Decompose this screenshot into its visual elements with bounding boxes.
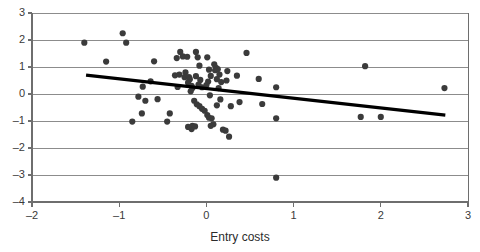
scatter-points	[81, 30, 447, 181]
data-point	[224, 68, 230, 74]
data-point	[185, 124, 191, 130]
data-point	[139, 110, 145, 116]
data-point	[164, 118, 170, 124]
y-tick-label-2: 2	[3, 34, 25, 45]
x-tick-label-3: 3	[455, 210, 480, 221]
x-tick-label--2: –2	[19, 210, 45, 221]
data-point	[196, 63, 202, 69]
data-point	[222, 128, 228, 134]
data-point	[207, 92, 213, 98]
y-tick-label--1: –1	[3, 115, 25, 126]
data-point	[195, 54, 201, 60]
plot-area	[0, 0, 480, 252]
data-point	[234, 73, 240, 79]
data-point	[217, 96, 223, 102]
data-point	[208, 73, 214, 79]
data-point	[204, 54, 210, 60]
y-tick-label-3: 3	[3, 7, 25, 18]
data-point	[206, 67, 212, 73]
y-tick-label-1: 1	[3, 61, 25, 72]
data-point	[154, 96, 160, 102]
data-point	[273, 84, 279, 90]
data-point	[142, 98, 148, 104]
data-point	[81, 40, 87, 46]
y-tick-label--2: –2	[3, 142, 25, 153]
data-point	[140, 84, 146, 90]
data-point	[226, 134, 232, 140]
data-point	[167, 110, 173, 116]
data-point	[123, 40, 129, 46]
data-point	[174, 55, 180, 61]
x-axis-title: Entry costs	[0, 230, 480, 244]
data-point	[188, 88, 194, 94]
x-tick-label-0: 0	[193, 210, 219, 221]
data-point	[273, 115, 279, 121]
data-point	[192, 123, 198, 129]
data-point	[259, 101, 265, 107]
data-point	[236, 99, 242, 105]
y-tick-label--3: –3	[3, 169, 25, 180]
y-tick-label--4: –4	[3, 196, 25, 207]
data-point	[193, 49, 199, 55]
x-tick-label-2: 2	[368, 210, 394, 221]
data-point	[223, 77, 229, 83]
x-tick-label--1: –1	[106, 210, 132, 221]
data-point	[441, 85, 447, 91]
data-point	[243, 50, 249, 56]
data-point	[151, 58, 157, 64]
data-point	[184, 54, 190, 60]
data-point	[209, 115, 215, 121]
data-point	[362, 63, 368, 69]
data-point	[378, 114, 384, 120]
x-tick-label-1: 1	[281, 210, 307, 221]
data-point	[135, 94, 141, 100]
data-point	[256, 76, 262, 82]
data-point	[129, 118, 135, 124]
data-point	[120, 30, 126, 36]
data-point	[218, 79, 224, 85]
data-point	[208, 123, 214, 129]
scatter-chart: Entry costs –4–3–2–10123–2–10123	[0, 0, 480, 252]
y-tick-label-0: 0	[3, 88, 25, 99]
data-point	[176, 71, 182, 77]
data-point	[103, 59, 109, 65]
data-point	[273, 175, 279, 181]
data-point	[228, 103, 234, 109]
data-point	[214, 102, 220, 108]
data-point	[358, 114, 364, 120]
